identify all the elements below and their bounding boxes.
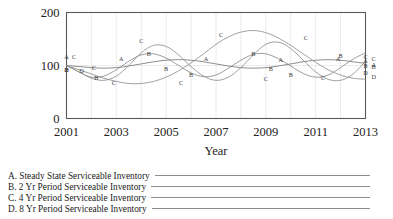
legend-label-c: C. 4 Yr Period Serviceable Inventory (8, 193, 146, 203)
curve-marker-b: B (164, 65, 168, 72)
legend-item-c: C. 4 Yr Period Serviceable Inventory (8, 192, 370, 203)
legend-label-d: D. 8 Yr Period Serviceable Inventory (8, 204, 147, 214)
curve-marker-c: C (321, 74, 325, 81)
inventory-line-chart: AAAAAABBBBBBBBBBCCCCCCCCCCDDD01002002001… (0, 0, 393, 219)
curve-marker-a: A (204, 55, 209, 62)
chart-plot-svg: AAAAAABBBBBBBBBBCCCCCCCCCCDDD01002002001… (0, 0, 393, 165)
legend-label-a: A. Steady State Serviceable Inventory (8, 171, 150, 181)
curve-marker-a: A (279, 56, 284, 63)
x-axis-title: Year (204, 144, 228, 158)
curve-marker-b: B (251, 50, 255, 57)
x-tick-label: 2011 (303, 125, 328, 139)
curve-marker-b: B (289, 71, 293, 78)
curve-marker-c: C (179, 79, 183, 86)
curve-marker-a: A (64, 53, 69, 60)
legend-line-a (155, 175, 370, 176)
curve-marker-b: B (339, 52, 343, 59)
curve-marker-a: A (119, 55, 124, 62)
end-marker-d: D (372, 73, 377, 80)
legend-item-a: A. Steady State Serviceable Inventory (8, 170, 370, 181)
curve-marker-c: C (139, 37, 143, 44)
curve-marker-d: D (79, 67, 84, 74)
x-tick-label: 2009 (253, 125, 278, 139)
y-tick-label: 200 (41, 6, 60, 20)
legend-label-b: B. 2 Yr Period Serviceable Inventory (8, 182, 146, 192)
curve-marker-c: C (363, 53, 367, 60)
curve-marker-b: B (147, 50, 151, 57)
curve-marker-b: B (363, 62, 367, 69)
x-tick-label: 2013 (353, 125, 378, 139)
legend-item-b: B. 2 Yr Period Serviceable Inventory (8, 181, 370, 192)
legend-line-d (152, 208, 370, 209)
curve-marker-c: C (219, 31, 223, 38)
curve-marker-c: C (264, 75, 268, 82)
legend-line-c (151, 197, 370, 198)
curve-marker-b: B (269, 65, 273, 72)
legend-line-b (151, 186, 370, 187)
curve-marker-b: B (94, 74, 98, 81)
curve-marker-b: B (189, 71, 193, 78)
y-tick-label: 100 (41, 59, 60, 73)
curve-marker-d: D (363, 69, 368, 76)
curve-marker-d: D (64, 66, 69, 73)
x-tick-label: 2003 (104, 125, 129, 139)
legend-item-d: D. 8 Yr Period Serviceable Inventory (8, 203, 370, 214)
end-marker-a: A (372, 61, 377, 68)
curve-marker-c: C (92, 64, 96, 71)
curve-marker-c: C (304, 34, 308, 41)
x-tick-label: 2007 (204, 125, 229, 139)
curve-marker-c: C (112, 79, 116, 86)
curve-marker-c: C (72, 53, 76, 60)
x-tick-label: 2001 (54, 125, 79, 139)
x-tick-label: 2005 (154, 125, 179, 139)
